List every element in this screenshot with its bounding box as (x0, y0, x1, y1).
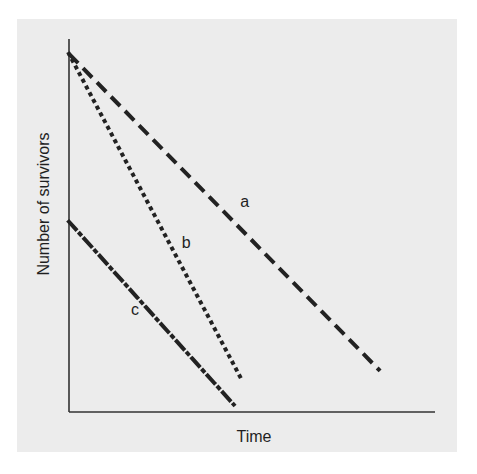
series-a-line (69, 54, 380, 371)
y-axis-label: Number of survivors (35, 132, 52, 275)
series-label-b: b (182, 234, 191, 251)
series-label-c: c (131, 301, 139, 318)
x-axis-label: Time (237, 428, 272, 445)
survivorship-chart: abc Time Number of survivors (0, 0, 477, 474)
series-c-line (69, 222, 234, 405)
series-label-a: a (240, 193, 249, 210)
series-b-line (69, 54, 241, 379)
annotation-layer: abc (131, 193, 249, 318)
series-layer (69, 54, 380, 405)
